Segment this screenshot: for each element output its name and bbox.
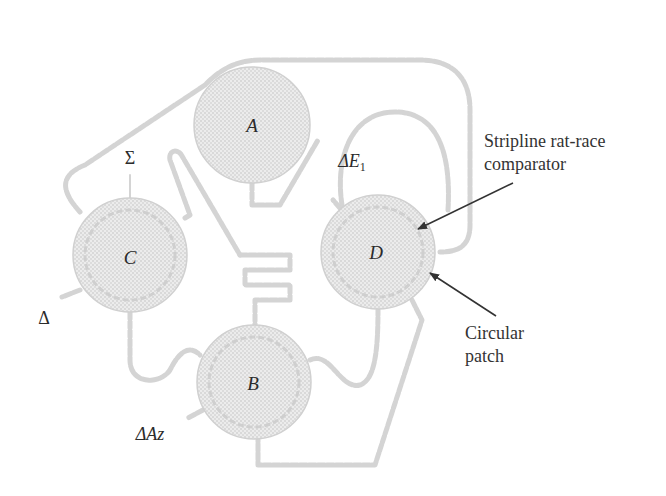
patch-label-d: D [369, 243, 383, 262]
trace-meander [240, 255, 290, 325]
patch-callout: Circular patch [465, 322, 524, 368]
comparator-callout-line2: comparator [484, 153, 605, 176]
trace-c-to-b [130, 312, 200, 380]
antenna-feed-diagram [0, 0, 666, 496]
patch-label-b: B [247, 374, 259, 393]
patch-arrow [430, 273, 496, 316]
port-delta-el-label: ΔE1 [338, 152, 366, 173]
port-sum-label: Σ [125, 149, 135, 167]
patch-callout-line1: Circular [465, 322, 524, 345]
port-delta-label: Δ [38, 309, 50, 327]
port-delta-el-subscript: 1 [360, 160, 366, 174]
comparator-callout-line1: Stripline rat-race [484, 130, 605, 153]
comparator-callout: Stripline rat-race comparator [484, 130, 605, 176]
trace-delta-stub [62, 290, 80, 297]
port-delta-el-symbol: ΔE [338, 151, 360, 171]
patch-label-a: A [246, 116, 258, 135]
trace-daz-stub [188, 410, 203, 418]
port-delta-az-label: ΔAz [136, 425, 165, 443]
trace-b-to-d [310, 310, 378, 385]
comparator-arrow [418, 183, 513, 229]
patch-callout-line2: patch [465, 345, 524, 368]
patch-label-c: C [124, 248, 137, 267]
